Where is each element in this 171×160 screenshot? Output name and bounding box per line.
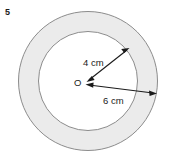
annulus-figure-container: 5 O 4 cm 6 cm: [0, 0, 171, 160]
annulus-diagram: 5 O 4 cm 6 cm: [0, 0, 171, 160]
outer-radius-label: 6 cm: [103, 95, 124, 106]
center-point-label: O: [74, 77, 81, 88]
inner-radius-label: 4 cm: [83, 57, 104, 68]
question-number: 5: [5, 7, 10, 17]
